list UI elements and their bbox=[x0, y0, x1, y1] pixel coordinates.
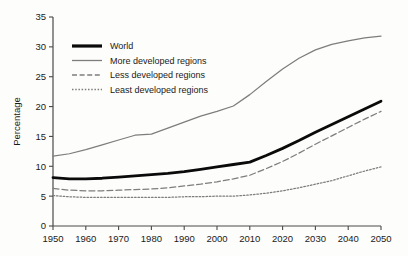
series-line-world bbox=[53, 101, 381, 179]
y-tick-label: 5 bbox=[41, 191, 46, 202]
chart-figure: 05101520253035 1950196019701980199020002… bbox=[0, 0, 408, 256]
data-series-group bbox=[53, 36, 381, 197]
x-tick-label: 2020 bbox=[272, 233, 293, 244]
y-axis-ticks: 05101520253035 bbox=[35, 11, 53, 231]
series-line-more-developed-regions bbox=[53, 36, 381, 156]
x-tick-label: 1950 bbox=[42, 233, 63, 244]
y-axis-title: Percentage bbox=[11, 97, 22, 146]
x-tick-label: 1970 bbox=[108, 233, 129, 244]
y-tick-label: 10 bbox=[35, 161, 46, 172]
x-tick-label: 2050 bbox=[370, 233, 391, 244]
legend-label: World bbox=[110, 41, 133, 51]
x-tick-label: 2030 bbox=[305, 233, 326, 244]
legend-label: Least developed regions bbox=[110, 85, 209, 95]
legend-label: More developed regions bbox=[110, 56, 207, 66]
line-chart-canvas: 05101520253035 1950196019701980199020002… bbox=[0, 0, 408, 256]
x-tick-label: 1960 bbox=[75, 233, 96, 244]
y-tick-label: 25 bbox=[35, 71, 46, 82]
legend-label: Less developed regions bbox=[110, 70, 206, 80]
x-tick-label: 1980 bbox=[141, 233, 162, 244]
x-axis-ticks: 1950196019701980199020002010202020302040… bbox=[42, 226, 391, 244]
y-tick-label: 15 bbox=[35, 131, 46, 142]
x-tick-label: 2040 bbox=[338, 233, 359, 244]
y-tick-label: 35 bbox=[35, 11, 46, 22]
x-tick-label: 2010 bbox=[239, 233, 260, 244]
y-tick-label: 0 bbox=[41, 220, 46, 231]
x-tick-label: 2000 bbox=[206, 233, 227, 244]
y-tick-label: 20 bbox=[35, 101, 46, 112]
x-tick-label: 1990 bbox=[174, 233, 195, 244]
chart-legend: WorldMore developed regionsLess develope… bbox=[72, 41, 209, 95]
y-tick-label: 30 bbox=[35, 41, 46, 52]
